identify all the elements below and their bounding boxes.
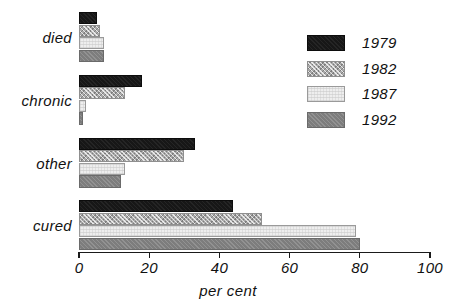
x-tick-label-80: 80 bbox=[340, 259, 380, 276]
bar-other-1992 bbox=[79, 175, 121, 187]
bar-group-other bbox=[79, 138, 430, 188]
bar-cured-1982 bbox=[79, 213, 262, 225]
x-tick-0 bbox=[78, 252, 79, 258]
x-tick-label-20: 20 bbox=[129, 259, 169, 276]
x-tick-80 bbox=[359, 252, 360, 258]
bar-chronic-1987 bbox=[79, 100, 86, 112]
legend-swatch-1982 bbox=[307, 61, 345, 77]
category-label-chronic: chronic bbox=[0, 92, 72, 109]
legend-item-1982[interactable]: 1982 bbox=[307, 59, 417, 80]
bar-group-cured bbox=[79, 200, 430, 250]
bar-chronic-1992 bbox=[79, 112, 83, 124]
legend-swatch-1979 bbox=[307, 35, 345, 51]
x-tick-100 bbox=[429, 252, 430, 258]
bar-other-1979 bbox=[79, 138, 195, 150]
bar-died-1982 bbox=[79, 25, 100, 37]
legend-swatch-1987 bbox=[307, 86, 345, 102]
category-label-cured: cured bbox=[0, 217, 72, 234]
x-tick-60 bbox=[289, 252, 290, 258]
legend-item-1992[interactable]: 1992 bbox=[307, 110, 417, 131]
bar-other-1987 bbox=[79, 163, 125, 175]
category-label-died: died bbox=[0, 29, 72, 46]
x-tick-label-0: 0 bbox=[59, 259, 99, 276]
bar-cured-1992 bbox=[79, 238, 360, 250]
bar-other-1982 bbox=[79, 150, 184, 162]
legend-label-1982: 1982 bbox=[362, 59, 397, 79]
bar-chronic-1979 bbox=[79, 75, 142, 87]
bar-died-1979 bbox=[79, 12, 97, 24]
category-label-other: other bbox=[0, 155, 72, 172]
bar-died-1987 bbox=[79, 37, 104, 49]
legend-item-1979[interactable]: 1979 bbox=[307, 33, 417, 54]
legend-label-1992: 1992 bbox=[362, 110, 397, 130]
bar-cured-1987 bbox=[79, 225, 356, 237]
x-tick-40 bbox=[219, 252, 220, 258]
x-tick-label-100: 100 bbox=[410, 259, 450, 276]
bar-chart: died chronic other cured 020406080100 pe… bbox=[0, 0, 456, 308]
x-tick-20 bbox=[149, 252, 150, 258]
legend-item-1987[interactable]: 1987 bbox=[307, 84, 417, 105]
bar-cured-1979 bbox=[79, 200, 233, 212]
x-axis-title: per cent bbox=[0, 282, 456, 299]
x-tick-label-60: 60 bbox=[270, 259, 310, 276]
legend-swatch-1992 bbox=[307, 112, 345, 128]
bar-died-1992 bbox=[79, 50, 104, 62]
x-axis-line bbox=[79, 252, 431, 253]
bar-chronic-1982 bbox=[79, 87, 125, 99]
x-tick-label-40: 40 bbox=[199, 259, 239, 276]
legend-label-1979: 1979 bbox=[362, 33, 397, 53]
legend-label-1987: 1987 bbox=[362, 84, 397, 104]
